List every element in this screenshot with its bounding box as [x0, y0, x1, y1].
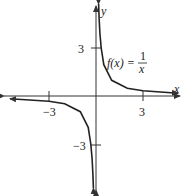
- hyperbola-chart: −3 3 3 −3 x y f(x) = 1 x: [0, 0, 186, 196]
- function-label-denominator: x: [138, 62, 145, 76]
- curve-positive-branch: [99, 4, 178, 93]
- function-label-lhs: f(x) =: [107, 56, 135, 70]
- y-tick-label-3: 3: [78, 42, 84, 56]
- x-tick-label-neg3: −3: [43, 105, 56, 119]
- x-axis-label: x: [173, 82, 180, 96]
- y-tick-label-neg3: −3: [73, 139, 86, 153]
- y-axis-label: y: [100, 4, 107, 18]
- x-tick-label-3: 3: [139, 105, 145, 119]
- function-label-numerator: 1: [140, 49, 146, 63]
